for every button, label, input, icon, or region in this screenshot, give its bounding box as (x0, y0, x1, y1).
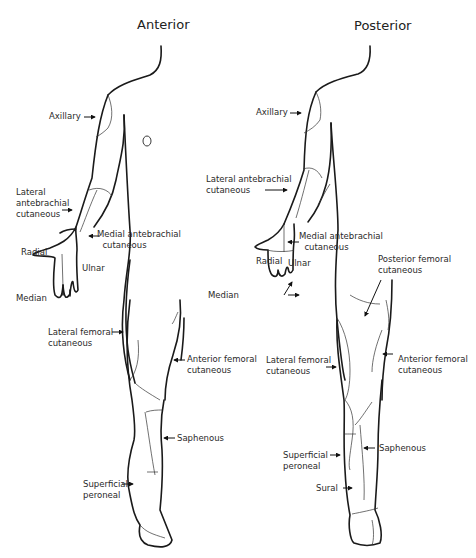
label-anterior-radial: Radial (21, 247, 47, 258)
posterior-title: Posterior (354, 18, 411, 33)
label-posterior-median: Median (208, 290, 239, 301)
label-anterior-ulnar: Ulnar (82, 263, 105, 274)
label-posterior-lateral-antebrachial: Lateral antebrachial cutaneous (206, 174, 292, 196)
label-posterior-medial-antebrachial: Medial antebrachial cutaneous (299, 231, 383, 253)
anterior-title: Anterior (137, 17, 189, 32)
label-posterior-anterior-femoral: Anterior femoral cutaneous (398, 354, 468, 376)
dermatome-figure (0, 0, 476, 558)
label-posterior-axillary: Axillary (256, 107, 288, 118)
label-anterior-anterior-femoral: Anterior femoral cutaneous (187, 354, 257, 376)
label-anterior-median: Median (16, 293, 47, 304)
label-anterior-medial-antebrachial: Medial antebrachial cutaneous (97, 229, 181, 251)
label-posterior-posterior-femoral: Posterior femoral cutaneous (378, 254, 451, 276)
label-posterior-sural: Sural (316, 483, 338, 494)
label-posterior-saphenous: Saphenous (379, 443, 426, 454)
label-anterior-saphenous: Saphenous (177, 433, 224, 444)
label-posterior-ulnar: Ulnar (288, 258, 311, 269)
label-posterior-radial: Radial (256, 256, 282, 267)
label-anterior-superficial-peroneal: Superficial peroneal (83, 479, 128, 501)
label-posterior-superficial-peroneal: Superficial peroneal (283, 450, 328, 472)
label-posterior-lateral-femoral: Lateral femoral cutaneous (266, 355, 331, 377)
label-anterior-lateral-femoral: Lateral femoral cutaneous (48, 327, 113, 349)
label-anterior-axillary: Axillary (49, 111, 81, 122)
label-anterior-lateral-antebrachial: Lateral antebrachial cutaneous (16, 187, 69, 220)
